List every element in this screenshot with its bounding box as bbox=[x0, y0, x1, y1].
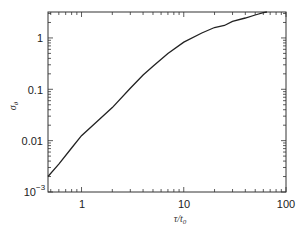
plot-frame bbox=[48, 12, 286, 192]
log-log-line-chart: 1 10 100 1 0.1 0.01 10 −3 τ/t0 σθ bbox=[0, 0, 308, 228]
data-series-line bbox=[48, 12, 267, 177]
y-tick-label-0.01: 0.01 bbox=[22, 135, 43, 147]
y-axis-label: σθ bbox=[7, 101, 20, 110]
x-tick-label-10: 10 bbox=[178, 198, 190, 210]
y-axis-ticks bbox=[48, 13, 286, 192]
x-axis-ticks bbox=[51, 12, 286, 192]
y-tick-label-0.1: 0.1 bbox=[28, 84, 43, 96]
y-tick-label-1e-3: 10 bbox=[24, 186, 36, 198]
y-tick-label-1e-3-exponent: −3 bbox=[36, 183, 46, 192]
x-tick-label-1: 1 bbox=[79, 198, 85, 210]
x-axis-label: τ/t0 bbox=[174, 213, 187, 226]
x-tick-label-100: 100 bbox=[277, 198, 295, 210]
y-tick-label-1: 1 bbox=[37, 32, 43, 44]
